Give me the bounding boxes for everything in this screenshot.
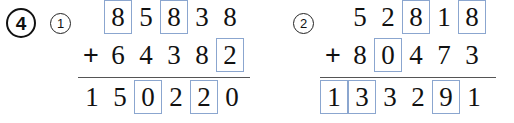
addend2-row: + 6 4 3 8 2 [78, 38, 250, 76]
digit: 2 [216, 38, 244, 72]
exercise-number-badge: 4 [6, 8, 36, 38]
digit: 3 [160, 38, 188, 72]
operator-placeholder [320, 0, 346, 34]
digit: 8 [458, 0, 486, 34]
digit: 0 [134, 80, 162, 114]
digit: 2 [190, 80, 218, 114]
digit: 8 [188, 38, 216, 72]
digit: 1 [320, 80, 348, 114]
digit: 4 [132, 38, 160, 72]
digit: 8 [160, 0, 188, 34]
digit: 5 [346, 0, 374, 34]
digit: 8 [216, 0, 244, 34]
digit: 6 [104, 38, 132, 72]
addend1-row: 8 5 8 3 8 [78, 0, 250, 38]
digit: 1 [78, 80, 106, 114]
digit: 3 [376, 80, 404, 114]
digit: 0 [218, 80, 246, 114]
digit: 8 [104, 0, 132, 34]
digit: 2 [162, 80, 190, 114]
sum-row: 1 3 3 2 9 1 [320, 80, 496, 118]
digit: 0 [374, 38, 402, 72]
digit: 1 [460, 80, 488, 114]
digit: 8 [402, 0, 430, 34]
problem-number-badge-2: 2 [293, 13, 314, 34]
sum-row: 1 5 0 2 2 0 [78, 80, 250, 118]
digit: 9 [432, 80, 460, 114]
digit: 2 [404, 80, 432, 114]
digit: 4 [402, 38, 430, 72]
plus-sign: + [320, 38, 346, 72]
digit: 8 [346, 38, 374, 72]
sum-rule [78, 77, 250, 78]
plus-sign: + [78, 38, 104, 72]
problem-number-badge-1: 1 [50, 13, 71, 34]
digit: 2 [374, 0, 402, 34]
addition-problem-1: 8 5 8 3 8 + 6 4 3 8 2 1 5 0 2 2 0 [78, 0, 250, 118]
digit: 5 [132, 0, 160, 34]
addend2-row: + 8 0 4 7 3 [320, 38, 496, 76]
sum-rule [320, 77, 496, 78]
digit: 5 [106, 80, 134, 114]
operator-placeholder [78, 0, 104, 34]
digit: 7 [430, 38, 458, 72]
worksheet: 4 1 8 5 8 3 8 + 6 4 3 8 2 1 5 0 2 2 0 [0, 0, 514, 123]
digit: 3 [458, 38, 486, 72]
addition-problem-2: 5 2 8 1 8 + 8 0 4 7 3 1 3 3 2 9 1 [320, 0, 496, 118]
digit: 1 [430, 0, 458, 34]
digit: 3 [348, 80, 376, 114]
digit: 3 [188, 0, 216, 34]
addend1-row: 5 2 8 1 8 [320, 0, 496, 38]
